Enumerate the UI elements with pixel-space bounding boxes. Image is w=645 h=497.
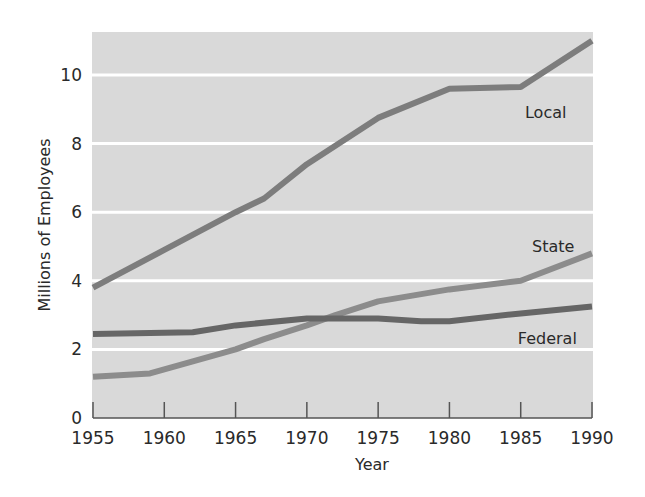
y-axis-title: Millions of Employees — [35, 138, 54, 311]
y-tick-label: 10 — [60, 65, 82, 85]
x-tick-label: 1965 — [214, 428, 257, 448]
y-tick-label: 2 — [71, 339, 82, 359]
y-tick-label: 0 — [71, 408, 82, 428]
x-tick-label: 1985 — [499, 428, 542, 448]
x-axis-title: Year — [354, 455, 389, 474]
x-tick-label: 1990 — [570, 428, 613, 448]
line-chart: 19551960196519701975198019851990 0246810… — [0, 0, 645, 497]
x-tick-label: 1975 — [357, 428, 400, 448]
y-tick-label: 4 — [71, 271, 82, 291]
series-label-local: Local — [525, 103, 566, 122]
y-tick-label: 6 — [71, 202, 82, 222]
y-axis-labels: 0246810 — [60, 65, 82, 428]
x-tick-label: 1955 — [71, 428, 114, 448]
series-label-state: State — [532, 237, 574, 256]
series-label-federal: Federal — [518, 329, 577, 348]
x-tick-label: 1960 — [143, 428, 186, 448]
x-tick-label: 1970 — [285, 428, 328, 448]
y-tick-label: 8 — [71, 134, 82, 154]
x-tick-label: 1980 — [428, 428, 471, 448]
